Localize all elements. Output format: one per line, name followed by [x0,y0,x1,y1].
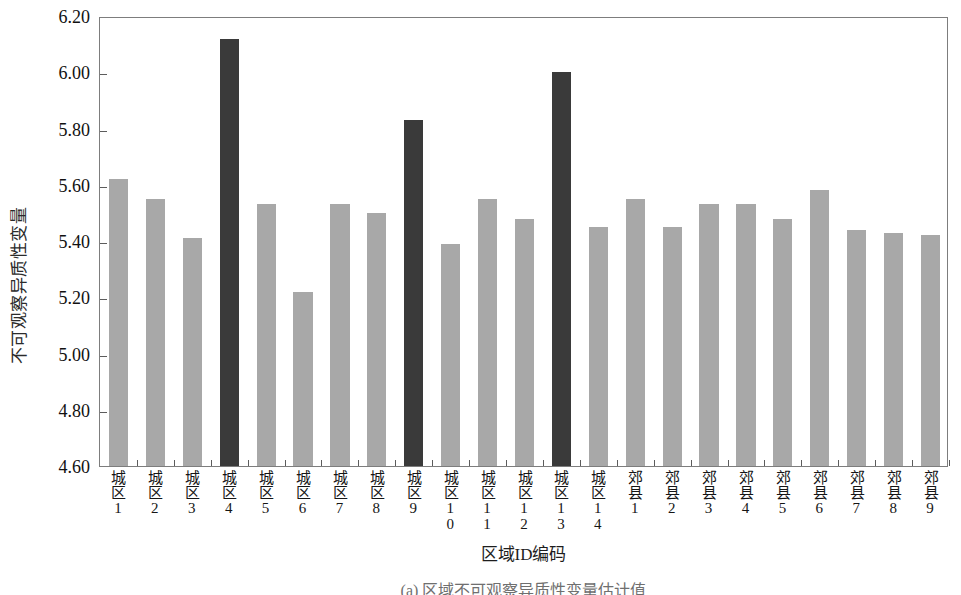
bar [109,179,128,466]
y-axis-title: 不可观察异质性变量 [0,120,36,450]
x-tick-label: 郊县9 [922,470,937,516]
x-tick-label: 郊县8 [885,470,900,516]
y-tick-label: 5.60 [59,177,91,195]
x-tick-label: 郊县1 [627,470,642,516]
plot-area [99,17,948,467]
x-tick-label: 郊县4 [737,470,752,516]
bar [441,244,460,466]
bar [699,204,718,466]
x-tick-label: 城区7 [331,470,346,516]
x-axis-title: 区域ID编码 [99,540,948,565]
x-tick-label: 城区11 [479,470,494,532]
bar [552,72,571,466]
bar [183,238,202,466]
y-axis-tick-labels: 6.206.005.805.605.405.205.004.804.60 [34,17,96,467]
bar [515,219,534,467]
bar [220,39,239,467]
x-tick-mark [949,460,950,466]
x-tick-label: 城区2 [147,470,162,516]
x-tick-label: 郊县3 [701,470,716,516]
x-tick-label: 城区3 [184,470,199,516]
x-tick-label: 城区8 [368,470,383,516]
x-axis-tick-labels: 城区1城区2城区3城区4城区5城区6城区7城区8城区9城区10城区11城区12城… [99,470,948,538]
bar [257,204,276,466]
x-tick-label: 郊县2 [664,470,679,516]
x-tick-label: 城区6 [295,470,310,516]
bar [589,227,608,466]
x-tick-label: 城区5 [258,470,273,516]
bar [478,199,497,466]
bar [921,235,940,466]
x-tick-label: 城区12 [516,470,531,532]
x-tick-label: 城区4 [221,470,236,516]
y-tick-label: 5.20 [59,289,91,307]
bar [367,213,386,466]
figure-container: 不可观察异质性变量 6.206.005.805.605.405.205.004.… [0,0,961,595]
figure-caption: (a) 区域不可观察异质性变量估计值 [99,578,948,595]
y-tick-label: 5.40 [59,233,91,251]
x-tick-label: 城区10 [442,470,457,532]
bar [663,227,682,466]
bar [736,204,755,466]
bars-layer [100,18,947,466]
x-tick-label: 郊县7 [848,470,863,516]
bar [330,204,349,466]
x-tick-label: 郊县5 [774,470,789,516]
x-tick-label: 城区9 [405,470,420,516]
bar [626,199,645,466]
y-axis-title-text: 不可观察异质性变量 [6,206,31,364]
bar [404,120,423,466]
y-tick-label: 6.20 [59,8,91,26]
y-tick-label: 5.00 [59,346,91,364]
bar [884,233,903,466]
bar [293,292,312,466]
bar [146,199,165,466]
y-tick-label: 5.80 [59,121,91,139]
x-tick-label: 城区1 [110,470,125,516]
bar [847,230,866,466]
x-tick-label: 城区14 [590,470,605,532]
x-tick-label: 郊县6 [811,470,826,516]
x-tick-label: 城区13 [553,470,568,532]
bar [810,190,829,466]
y-tick-label: 6.00 [59,64,91,82]
y-tick-label: 4.60 [59,458,91,476]
bar [773,219,792,467]
y-tick-label: 4.80 [59,402,91,420]
